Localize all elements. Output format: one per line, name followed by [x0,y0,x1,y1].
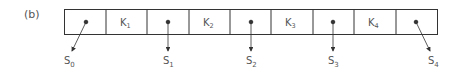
pointer-arrow-0 [72,22,86,51]
subtree-label-4: S4 [428,55,439,69]
subtree-label-0: S0 [64,55,75,69]
key-2: K2 [203,17,214,30]
subtree-label-3: S3 [328,55,339,69]
pointer-arrow-4 [416,22,430,51]
key-1: K1 [120,17,131,30]
subtree-label-1: S1 [163,55,174,69]
key-4: K4 [368,17,379,30]
subtree-label-2: S2 [246,55,257,69]
key-3: K3 [285,17,296,30]
